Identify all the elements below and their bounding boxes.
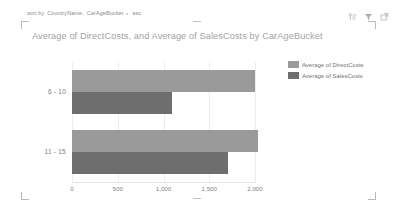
y-axis-label: 11 - 15 (45, 148, 66, 155)
chart-title: Average of DirectCosts, and Average of S… (32, 31, 323, 41)
x-axis-tick-label: 1,000 (156, 185, 171, 192)
y-axis: 6 - 1011 - 15 (10, 62, 66, 182)
y-axis-label: 6 - 10 (48, 88, 66, 95)
chevron-down-icon[interactable]: ▾ (126, 12, 129, 16)
bar[interactable] (72, 130, 258, 152)
legend-swatch (288, 72, 299, 79)
selection-handle-top-center[interactable] (193, 21, 201, 22)
selection-handle-bottom-center[interactable] (193, 198, 201, 199)
visual-header-icons (348, 8, 389, 18)
bar-group (72, 70, 255, 114)
sort-field-primary[interactable]: CountryName, (47, 10, 84, 16)
bar[interactable] (72, 152, 228, 174)
x-axis-tick-label: 500 (113, 185, 123, 192)
bar[interactable] (72, 92, 172, 114)
filter-icon[interactable] (364, 8, 373, 18)
legend-item[interactable]: Average of DirectCosts (288, 60, 364, 69)
chart-legend: Average of DirectCostsAverage of SalesCo… (288, 60, 364, 82)
sort-direction[interactable]: asc (133, 10, 142, 16)
sort-by-control[interactable]: sort byCountryName,CarAgeBucket▾asc (27, 10, 144, 16)
axis-baseline (72, 182, 255, 183)
sort-field-secondary[interactable]: CarAgeBucket (87, 10, 124, 16)
sort-icon[interactable] (348, 8, 357, 18)
focus-mode-icon[interactable] (380, 8, 389, 18)
legend-swatch (288, 61, 299, 68)
bar-group (72, 130, 255, 174)
selection-handle-bottom-left[interactable] (21, 192, 29, 200)
plot-area (72, 62, 255, 182)
gridline (255, 62, 256, 182)
sort-by-prefix: sort by (27, 10, 44, 16)
legend-label: Average of SalesCosts (302, 73, 363, 79)
legend-item[interactable]: Average of SalesCosts (288, 71, 364, 80)
x-axis-tick-label: 1,500 (202, 185, 217, 192)
x-axis-tick-label: 0 (70, 185, 73, 192)
x-axis-tick-label: 2,000 (247, 185, 262, 192)
legend-label: Average of DirectCosts (302, 62, 364, 68)
selection-handle-top-right[interactable] (368, 21, 376, 29)
selection-handle-top-left[interactable] (21, 21, 29, 29)
selection-handle-bottom-right[interactable] (368, 192, 376, 200)
x-axis: 05001,0001,5002,000 (72, 185, 255, 195)
bar[interactable] (72, 70, 255, 92)
